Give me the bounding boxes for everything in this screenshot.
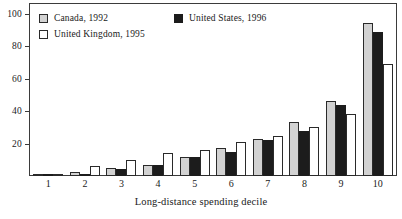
bar-canada-decile-7 xyxy=(253,139,263,176)
bar-uk-decile-8 xyxy=(309,127,319,176)
x-tick-label-9: 9 xyxy=(323,178,360,189)
legend-swatch-united-kingdom-icon xyxy=(39,30,48,39)
legend-swatch-canada-icon xyxy=(39,14,48,23)
y-tick-label: 20 xyxy=(12,139,22,149)
legend-row-2: United Kingdom, 1995 xyxy=(39,29,267,45)
bar-uk-decile-5 xyxy=(200,150,210,176)
legend-entry-canada: Canada, 1992 xyxy=(39,13,174,23)
legend-entry-united-kingdom: United Kingdom, 1995 xyxy=(39,29,174,39)
legend-row-1: Canada, 1992 United States, 1996 xyxy=(39,13,267,29)
y-tick-label: 60 xyxy=(12,74,22,84)
x-tick-label-5: 5 xyxy=(176,178,213,189)
x-axis-title: Long-distance spending decile xyxy=(0,196,402,207)
x-tick-label-6: 6 xyxy=(213,178,250,189)
bar-us-decile-7 xyxy=(263,140,273,176)
bar-canada-decile-2 xyxy=(70,172,80,176)
y-axis: 20406080100 xyxy=(0,0,29,219)
bar-us-decile-1 xyxy=(43,174,53,176)
chart-legend: Canada, 1992 United States, 1996 United … xyxy=(39,13,267,45)
bar-group-decile-8 xyxy=(286,4,323,176)
bar-uk-decile-6 xyxy=(236,142,246,176)
bar-us-decile-5 xyxy=(190,157,200,176)
legend-entry-united-states: United States, 1996 xyxy=(174,13,267,23)
bar-us-decile-6 xyxy=(226,152,236,176)
x-axis-tick-labels: 12345678910 xyxy=(30,178,396,189)
bar-uk-decile-3 xyxy=(126,160,136,176)
x-tick-label-8: 8 xyxy=(286,178,323,189)
bar-us-decile-3 xyxy=(116,169,126,176)
bar-canada-decile-1 xyxy=(33,174,43,176)
x-tick-label-4: 4 xyxy=(140,178,177,189)
bar-canada-decile-3 xyxy=(106,168,116,176)
bar-us-decile-4 xyxy=(153,165,163,176)
legend-label-canada: Canada, 1992 xyxy=(54,13,108,23)
x-tick-label-2: 2 xyxy=(67,178,104,189)
legend-label-united-kingdom: United Kingdom, 1995 xyxy=(54,29,145,39)
bar-canada-decile-9 xyxy=(326,101,336,176)
bar-us-decile-9 xyxy=(336,105,346,176)
bar-uk-decile-10 xyxy=(383,64,393,176)
bar-us-decile-10 xyxy=(373,32,383,176)
bar-uk-decile-1 xyxy=(53,174,63,176)
bar-chart: 20406080100 12345678910 Long-distance sp… xyxy=(0,0,402,219)
x-tick-label-1: 1 xyxy=(30,178,67,189)
bar-canada-decile-6 xyxy=(216,148,226,176)
legend-swatch-united-states-icon xyxy=(174,14,183,23)
bar-us-decile-2 xyxy=(80,174,90,176)
bar-group-decile-9 xyxy=(323,4,360,176)
bar-canada-decile-4 xyxy=(143,165,153,176)
y-tick-label: 80 xyxy=(12,41,22,51)
y-tick-label: 40 xyxy=(12,106,22,116)
y-tick-label: 100 xyxy=(7,9,22,19)
bar-canada-decile-5 xyxy=(180,157,190,176)
bar-uk-decile-7 xyxy=(273,136,283,176)
bar-uk-decile-9 xyxy=(346,114,356,176)
legend-label-united-states: United States, 1996 xyxy=(189,13,267,23)
bar-uk-decile-2 xyxy=(90,166,100,176)
bar-canada-decile-10 xyxy=(363,23,373,176)
x-tick-label-7: 7 xyxy=(250,178,287,189)
bar-canada-decile-8 xyxy=(289,122,299,176)
x-tick-label-3: 3 xyxy=(103,178,140,189)
bar-us-decile-8 xyxy=(299,131,309,176)
bar-uk-decile-4 xyxy=(163,153,173,176)
bar-group-decile-10 xyxy=(359,4,396,176)
x-tick-label-10: 10 xyxy=(359,178,396,189)
